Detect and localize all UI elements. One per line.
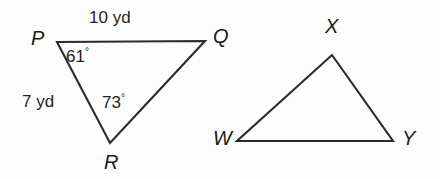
vertex-label-q: Q	[213, 26, 229, 46]
angle-label-r: 73°	[102, 93, 125, 111]
geometry-figure: P Q R 10 yd 7 yd 61° 73° X W Y	[0, 0, 440, 179]
vertex-label-y: Y	[402, 128, 415, 148]
side-label-pr: 7 yd	[22, 93, 54, 110]
angle-value-r: 73	[102, 93, 121, 112]
vertex-label-w: W	[213, 128, 232, 148]
vertex-label-p: P	[31, 28, 44, 48]
degree-symbol-p: °	[85, 46, 89, 57]
triangle-wxy-outline	[237, 55, 393, 141]
angle-value-p: 61	[66, 47, 85, 66]
vertex-label-x: X	[325, 16, 338, 36]
vertex-label-r: R	[104, 152, 118, 172]
degree-symbol-r: °	[121, 92, 125, 103]
angle-label-p: 61°	[66, 47, 89, 65]
side-label-pq: 10 yd	[89, 9, 131, 26]
